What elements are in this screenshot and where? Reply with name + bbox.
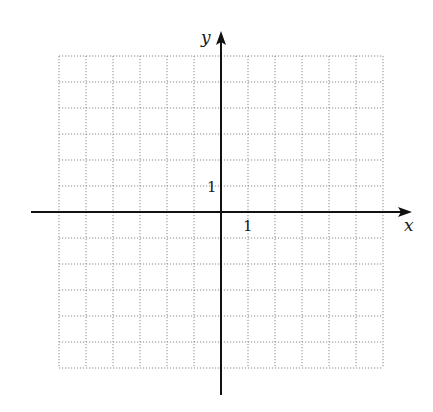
coordinate-plane: y x 1 1 (0, 0, 433, 412)
y-unit-label: 1 (207, 178, 217, 196)
x-axis-label: x (404, 215, 414, 235)
x-unit-label: 1 (243, 217, 253, 235)
y-axis-label: y (200, 27, 211, 47)
